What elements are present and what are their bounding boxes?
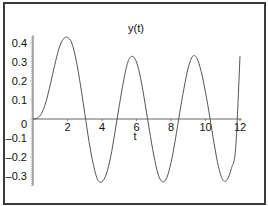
x-tick-label: 8: [168, 121, 174, 133]
y-tick-label: 0: [21, 118, 27, 130]
y-tick-label: –0.2: [6, 151, 27, 163]
x-tick-labels: 24681012: [64, 121, 246, 133]
line-chart: 0.40.30.20.10–0.1–0.2–0.3 24681012 y(t) …: [0, 0, 268, 206]
y-tick-label: 0.4: [12, 37, 27, 49]
y-axis: [30, 35, 33, 185]
y-tick-label: 0.1: [12, 94, 27, 106]
x-tick-label: 2: [64, 121, 70, 133]
x-tick-label: 4: [99, 121, 105, 133]
y-tick-labels: 0.40.30.20.10–0.1–0.2–0.3: [6, 37, 27, 182]
series-line-y-t: [33, 37, 240, 182]
x-axis-label: t: [133, 130, 136, 142]
x-tick-label: 12: [234, 121, 246, 133]
chart-title: y(t): [128, 22, 144, 34]
y-tick-label: 0.2: [12, 75, 27, 87]
y-tick-label: –0.3: [6, 170, 27, 182]
y-tick-label: –0.1: [6, 132, 27, 144]
y-tick-label: 0.3: [12, 56, 27, 68]
x-tick-label: 10: [199, 121, 211, 133]
